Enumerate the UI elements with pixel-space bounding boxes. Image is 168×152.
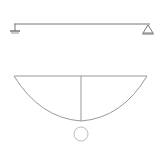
moment-curve (14, 76, 147, 121)
beam-moment-diagram (0, 0, 168, 152)
roller-support-icon (142, 25, 154, 34)
pin-support-icon (10, 24, 20, 33)
moment-symbol-circle (74, 127, 88, 141)
